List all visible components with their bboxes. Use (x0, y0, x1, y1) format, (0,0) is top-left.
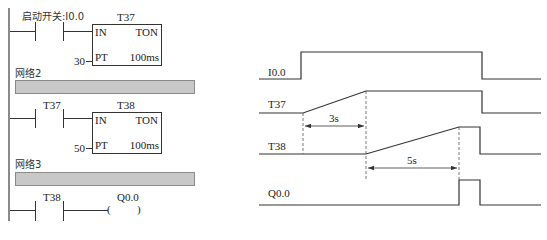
waveform-q00 (259, 180, 541, 205)
signal-label-q00: Q0.0 (268, 188, 290, 199)
waveform-i00 (259, 52, 541, 79)
signal-label-t38: T38 (268, 141, 286, 152)
signal-label-t37: T37 (268, 99, 286, 110)
waveform-t37 (259, 91, 541, 113)
interval-label-5s: 5s (407, 155, 417, 166)
interval-label-3s: 3s (329, 113, 339, 124)
waveform-t38 (259, 127, 541, 154)
signal-label-i00: I0.0 (268, 67, 285, 78)
